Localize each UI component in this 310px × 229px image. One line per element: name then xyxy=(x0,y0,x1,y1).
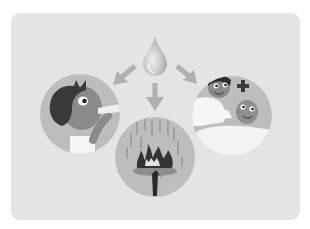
arrow-down-icon xyxy=(146,83,164,111)
drinking-panel xyxy=(40,74,120,161)
water-drop-icon xyxy=(143,37,167,76)
arrow-right-down-icon xyxy=(177,66,197,84)
arrow-left-down-icon xyxy=(113,66,135,85)
water-uses-illustration xyxy=(0,0,310,229)
healthcare-panel xyxy=(192,76,272,160)
firefighting-panel xyxy=(115,117,195,197)
